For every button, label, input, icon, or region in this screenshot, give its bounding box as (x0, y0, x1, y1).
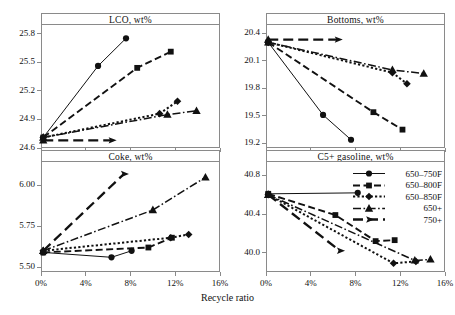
y-tickmark (37, 62, 41, 63)
legend-key-circle-icon (352, 168, 386, 179)
x-axis-tick-label: 0% (23, 278, 59, 288)
data-point-marker (365, 193, 373, 201)
y-tickmark (262, 175, 266, 176)
y-axis-tick-label: 19.8 (224, 82, 260, 92)
x-axis-tick-label: 8% (338, 278, 374, 288)
plot-area-2 (41, 161, 220, 272)
y-tickmark (262, 115, 266, 116)
legend-item-650-800f[interactable]: 650–800F (352, 180, 442, 191)
x-tickmark (400, 272, 401, 276)
x-tickmark (41, 272, 42, 276)
y-axis-tick-label: 25.5 (0, 56, 35, 66)
legend-key-diamond-icon (352, 191, 386, 202)
x-tickmark (130, 272, 131, 276)
figure-root: LCO, wt%24.624.925.225.525.8Bottoms, wt%… (0, 0, 455, 315)
y-tickmark (262, 143, 266, 144)
y-axis-tick-label: 25.8 (0, 28, 35, 38)
x-tickmark (85, 272, 86, 276)
y-tickmark (37, 33, 41, 34)
legend-key-square-icon (352, 180, 386, 191)
x-axis-tick-label: 4% (68, 278, 104, 288)
legend-key-triangle-icon (352, 203, 386, 214)
x-axis-tick-label: 0% (248, 278, 284, 288)
y-axis-tick-label: 5.75 (0, 220, 35, 230)
legend-label: 650–800F (386, 180, 442, 190)
legend-key-arrow-icon (352, 214, 386, 225)
legend-label: 650–850F (386, 192, 442, 202)
legend-item-650-850f[interactable]: 650–850F (352, 191, 442, 202)
legend-item-750-[interactable]: 750+ (352, 214, 442, 225)
y-axis-tick-label: 24.6 (0, 142, 35, 152)
x-tickmark (266, 272, 267, 276)
legend-label: 650–750F (386, 169, 442, 179)
y-axis-tick-label: 19.2 (224, 137, 260, 147)
y-axis-tick-label: 40.8 (224, 169, 260, 179)
y-axis-tick-label: 5.50 (0, 261, 35, 271)
y-tickmark (37, 267, 41, 268)
y-tickmark (37, 226, 41, 227)
legend-label: 650+ (386, 203, 442, 213)
x-tickmark (310, 272, 311, 276)
x-axis-tick-label: 12% (157, 278, 193, 288)
y-axis-tick-label: 40.4 (224, 208, 260, 218)
x-tickmark (355, 272, 356, 276)
legend: 650–750F650–800F650–850F650+750+ (352, 168, 442, 226)
data-point-marker (366, 182, 372, 188)
legend-item-650-[interactable]: 650+ (352, 203, 442, 214)
x-tickmark (445, 272, 446, 276)
x-axis-label: Recycle ratio (0, 292, 455, 303)
x-axis-tick-label: 4% (293, 278, 329, 288)
y-tickmark (262, 60, 266, 61)
y-axis-tick-label: 40.0 (224, 247, 260, 257)
y-tickmark (262, 88, 266, 89)
data-point-marker (366, 170, 372, 176)
legend-label: 750+ (386, 215, 442, 225)
legend-item-650-750f[interactable]: 650–750F (352, 168, 442, 179)
x-axis-tick-label: 16% (202, 278, 238, 288)
y-axis-tick-label: 25.2 (0, 85, 35, 95)
y-tickmark (37, 119, 41, 120)
y-axis-tick-label: 19.5 (224, 110, 260, 120)
plot-area-0 (41, 24, 220, 148)
x-axis-tick-label: 8% (113, 278, 149, 288)
y-tickmark (37, 185, 41, 186)
y-tickmark (262, 33, 266, 34)
y-tickmark (37, 90, 41, 91)
y-axis-tick-label: 20.1 (224, 55, 260, 65)
x-axis-tick-label: 16% (427, 278, 455, 288)
y-axis-tick-label: 6.00 (0, 179, 35, 189)
x-axis-tick-label: 12% (382, 278, 418, 288)
y-tickmark (262, 252, 266, 253)
y-axis-tick-label: 24.9 (0, 113, 35, 123)
data-point-marker (366, 216, 374, 222)
y-axis-tick-label: 20.4 (224, 27, 260, 37)
y-tickmark (262, 214, 266, 215)
x-tickmark (175, 272, 176, 276)
x-tickmark (220, 272, 221, 276)
plot-area-1 (266, 24, 445, 148)
